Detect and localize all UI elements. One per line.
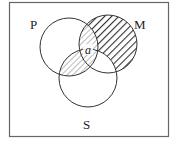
label-s: S	[83, 117, 90, 132]
label-m: M	[134, 17, 146, 32]
label-p: P	[30, 17, 37, 32]
point-label-a: a	[85, 43, 91, 57]
venn-diagram: a P M S	[0, 0, 178, 144]
